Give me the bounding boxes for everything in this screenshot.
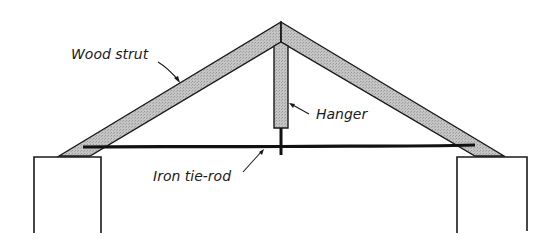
right-support-wall [457,157,527,233]
hanger-label: Hanger [316,107,367,121]
iron-tie-rod-label: Iron tie-rod [153,169,231,183]
hanger-leader [289,103,309,114]
truss-diagram [0,0,552,246]
wood-strut-label: Wood strut [71,47,148,61]
left-support-wall [34,157,101,233]
right-wood-strut [281,22,504,156]
wood-strut-leader [158,62,180,83]
left-wood-strut [59,22,281,156]
iron-tie-rod-leader [243,149,264,172]
iron-tie-rod [83,145,475,147]
hanger-member [274,42,288,128]
